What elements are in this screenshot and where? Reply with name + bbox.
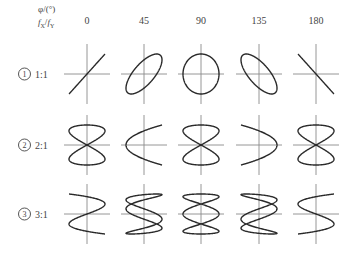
lissajous-cell-2-1-phase-135 bbox=[236, 115, 282, 175]
lissajous-figure-grid bbox=[0, 0, 360, 262]
lissajous-cell-3-1-phase-90 bbox=[178, 184, 224, 244]
lissajous-cell-2-1-phase-90 bbox=[178, 115, 224, 175]
lissajous-cell-3-1-phase-180 bbox=[293, 184, 339, 244]
lissajous-cell-2-1-phase-180 bbox=[293, 115, 339, 175]
lissajous-cell-1-1-phase-180 bbox=[293, 44, 339, 104]
lissajous-cell-1-1-phase-45 bbox=[121, 44, 167, 104]
lissajous-cell-1-1-phase-135 bbox=[236, 44, 282, 104]
lissajous-cell-3-1-phase-45 bbox=[121, 184, 167, 244]
lissajous-cell-1-1-phase-0 bbox=[64, 44, 110, 104]
lissajous-cell-2-1-phase-0 bbox=[64, 115, 110, 175]
lissajous-cell-1-1-phase-90 bbox=[178, 44, 224, 104]
lissajous-cell-3-1-phase-135 bbox=[236, 184, 282, 244]
lissajous-cell-3-1-phase-0 bbox=[64, 184, 110, 244]
lissajous-cell-2-1-phase-45 bbox=[121, 115, 167, 175]
